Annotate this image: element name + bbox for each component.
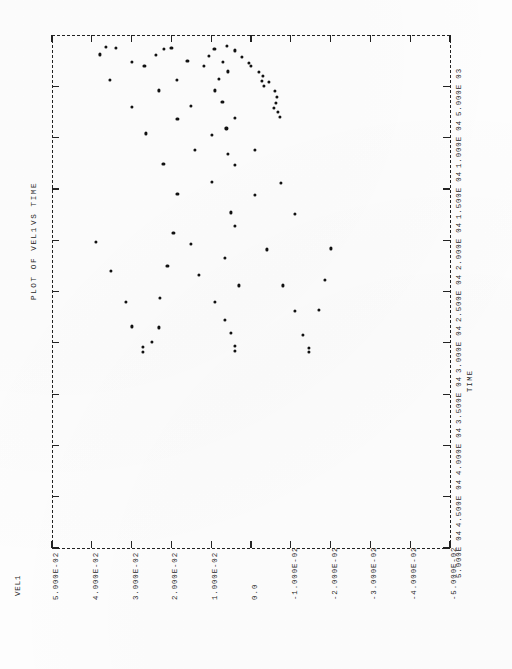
data-point — [222, 60, 225, 63]
data-point — [163, 47, 166, 50]
data-point — [253, 193, 256, 196]
data-point — [210, 180, 213, 183]
data-point — [273, 89, 276, 92]
data-point — [281, 284, 284, 287]
plot-page: PLOT OF VEL1 VS TIME VEL1 TIME 5.000E-02… — [0, 0, 512, 669]
data-point — [293, 309, 296, 312]
data-point — [253, 148, 256, 151]
data-point — [104, 46, 107, 49]
data-point — [233, 164, 236, 167]
data-point — [261, 74, 264, 77]
data-point — [130, 60, 133, 63]
data-point — [226, 45, 229, 48]
data-point — [98, 53, 101, 56]
data-point — [202, 65, 205, 68]
data-point — [267, 81, 270, 84]
data-point — [198, 273, 201, 276]
data-point — [224, 256, 227, 259]
x-tick-label-text: 2.000E 04 — [455, 222, 463, 270]
data-point — [155, 53, 158, 56]
data-point — [221, 100, 224, 103]
data-point — [233, 117, 236, 120]
y-tick-label-text: 4.000E-02 — [92, 552, 100, 600]
data-point — [109, 269, 112, 272]
data-point — [278, 115, 281, 118]
data-point — [237, 284, 240, 287]
data-point — [226, 70, 229, 73]
y-tick-label-text: 0.0 — [251, 583, 259, 600]
plot-title-sub: VS TIME — [30, 182, 38, 225]
data-point — [175, 78, 178, 81]
data-point — [261, 79, 264, 82]
y-tick-label-text: 1.000E-02 — [211, 552, 219, 600]
data-point — [307, 346, 310, 349]
data-point — [224, 319, 227, 322]
frame-edge-bottom — [52, 548, 450, 549]
y-tick-label-text: -3.000E-02 — [370, 547, 378, 600]
data-point — [262, 85, 265, 88]
data-point — [293, 212, 296, 215]
y-tick-label-text: -1.000E-02 — [291, 547, 299, 600]
x-tick-label-text: 4.000E 04 — [455, 427, 463, 475]
data-point — [144, 132, 147, 135]
data-point — [233, 49, 236, 52]
data-point — [279, 181, 282, 184]
data-point — [233, 349, 236, 352]
data-point — [141, 345, 144, 348]
data-point — [108, 79, 111, 82]
data-point — [233, 344, 236, 347]
x-tick-label-text: 1.000E 04 — [455, 120, 463, 168]
y-tick-label-text: -4.000E-02 — [410, 547, 418, 600]
x-tick-label-text: 3.000E 04 — [455, 325, 463, 373]
scatter-points-layer — [52, 35, 450, 548]
x-tick-label-text: 5.000E 03 — [455, 68, 463, 116]
data-point — [274, 101, 277, 104]
data-point — [141, 350, 144, 353]
data-point — [170, 46, 173, 49]
data-point — [257, 70, 260, 73]
x-tick-label-text: 3.500E 04 — [455, 376, 463, 424]
data-point — [114, 46, 117, 49]
data-point — [124, 300, 127, 303]
data-point — [176, 118, 179, 121]
data-point — [301, 333, 304, 336]
x-axis-title: TIME — [466, 370, 474, 392]
data-point — [210, 133, 213, 136]
data-point — [241, 55, 244, 58]
plot-title-main: PLOT OF VEL1 — [30, 226, 38, 300]
data-point — [214, 300, 217, 303]
data-point — [94, 241, 97, 244]
data-point — [150, 340, 153, 343]
y-tick-label-text: 2.000E-02 — [171, 552, 179, 600]
y-tick-label-text: 3.000E-02 — [132, 552, 140, 600]
data-point — [176, 192, 179, 195]
y-tick-label-text: 5.000E-02 — [52, 552, 60, 600]
data-point — [323, 279, 326, 282]
data-point — [213, 47, 216, 50]
data-point — [130, 325, 133, 328]
data-point — [276, 110, 279, 113]
x-tick-label-text: 2.500E 04 — [455, 273, 463, 321]
data-point — [233, 224, 236, 227]
data-point — [218, 78, 221, 81]
x-tick-label-text: 4.500E 04 — [455, 479, 463, 527]
data-point — [130, 105, 133, 108]
data-point — [208, 54, 211, 57]
data-point — [230, 331, 233, 334]
data-point — [166, 264, 169, 267]
data-point — [225, 127, 228, 130]
frame-edge-right — [450, 35, 451, 548]
data-point — [172, 231, 175, 234]
y-axis-title: VEL1 — [14, 575, 22, 596]
data-point — [190, 243, 193, 246]
data-point — [143, 65, 146, 68]
data-point — [230, 211, 233, 214]
data-point — [317, 308, 320, 311]
data-point — [329, 247, 332, 250]
data-point — [190, 104, 193, 107]
data-point — [162, 163, 165, 166]
data-point — [186, 60, 189, 63]
data-point — [194, 148, 197, 151]
data-point — [157, 326, 160, 329]
data-point — [307, 350, 310, 353]
